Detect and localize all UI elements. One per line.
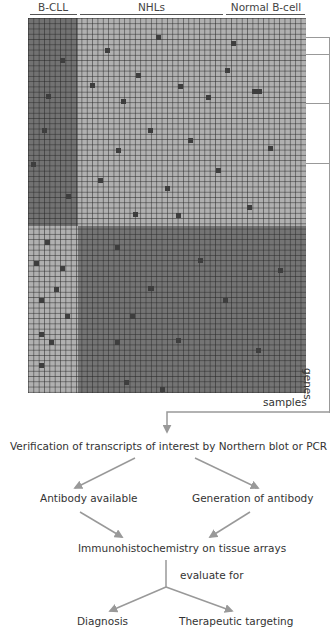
outcome-therapeutic-targeting: Therapeutic targeting — [179, 615, 293, 627]
step-antibody-available: Antibody available — [40, 492, 138, 504]
outcome-diagnosis: Diagnosis — [77, 615, 128, 627]
evaluate-for-label: evaluate for — [180, 569, 243, 581]
step-verification: Verification of transcripts of interest … — [10, 440, 327, 452]
flow-arrows — [0, 0, 331, 635]
step-generation-of-antibody: Generation of antibody — [192, 492, 313, 504]
step-immunohistochemistry: Immunohistochemistry on tissue arrays — [78, 542, 286, 554]
